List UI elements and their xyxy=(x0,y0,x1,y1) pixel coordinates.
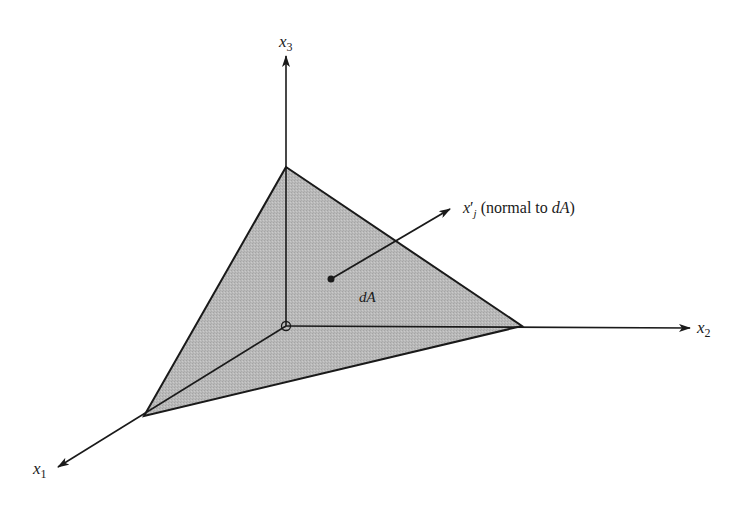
x2-axis-label: x2 xyxy=(696,318,711,340)
x1-axis xyxy=(58,326,286,467)
area-element-label: dA xyxy=(359,289,377,305)
x1-axis-label: x1 xyxy=(32,459,47,481)
normal-label: x′j (normal to dA) xyxy=(462,199,575,219)
diagram-canvas: x3 x2 x1 dA x′j (normal to dA) xyxy=(0,0,742,511)
x3-axis-label: x3 xyxy=(278,32,293,54)
diagram-svg: x3 x2 x1 dA x′j (normal to dA) xyxy=(0,0,742,511)
